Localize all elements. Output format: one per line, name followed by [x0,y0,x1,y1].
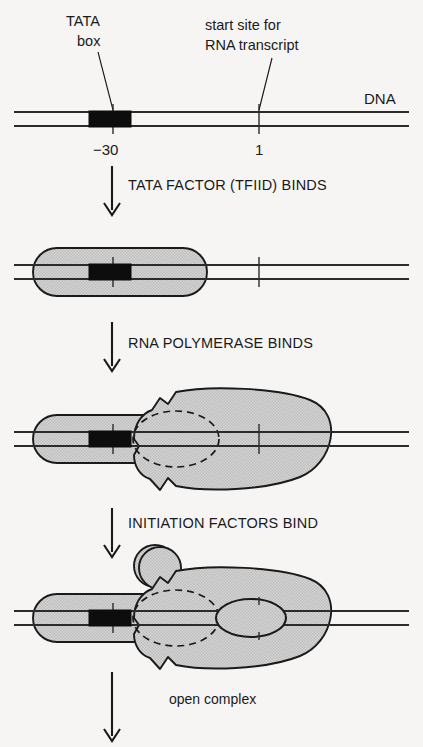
stage-bare-dna: TATA box start site for RNA transcript D… [14,13,409,158]
rna-polymerase [134,388,331,490]
minus30-tick-label: −30 [93,141,118,158]
tata-box-label-line2: box [77,33,101,49]
step-1-label: TATA FACTOR (TFIID) BINDS [128,177,327,193]
step-2-label: RNA POLYMERASE BINDS [128,335,313,351]
step-1-transition: TATA FACTOR (TFIID) BINDS [104,166,327,215]
tata-box-block [89,431,131,447]
step-2-transition: RNA POLYMERASE BINDS [104,322,313,371]
plus1-tick-label: 1 [255,141,263,158]
step-4-transition [104,672,120,741]
tata-box-leader-line [98,52,113,110]
step-3-transition: INITIATION FACTORS BIND [104,508,318,557]
tata-box-block [89,610,131,626]
open-complex-label: open complex [169,691,256,707]
start-site-label-line1: start site for [205,17,281,33]
tata-box-block [89,264,131,280]
start-site-label-line2: RNA transcript [205,37,298,53]
step-3-label: INITIATION FACTORS BIND [128,515,318,531]
tata-box-label-line1: TATA [66,13,100,29]
dna-label: DNA [364,90,396,107]
dna-bubble [216,599,286,637]
stage-polymerase-bound [14,388,409,490]
stage-tfiid-bound [14,248,409,296]
start-site-leader-line [259,58,272,110]
tata-box-block [89,111,131,127]
stage-open-complex: open complex [14,545,409,707]
transcription-initiation-figure: TATA box start site for RNA transcript D… [0,0,423,747]
